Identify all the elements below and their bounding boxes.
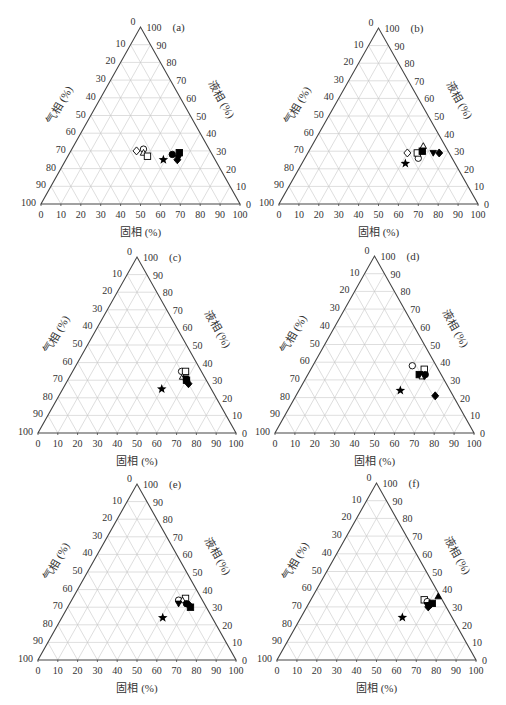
bottom-axis-title: 固相 (%) xyxy=(116,682,158,695)
left-tick-label: 40 xyxy=(324,91,334,102)
left-tick-label: 0 xyxy=(365,245,370,256)
right-tick-label: 20 xyxy=(460,393,470,404)
bottom-axis-title: 固相 (%) xyxy=(358,226,400,239)
square-filled-marker-icon xyxy=(429,600,435,606)
left-axis-title: 气相 (%) xyxy=(40,313,73,356)
right-tick-label: 60 xyxy=(183,549,193,560)
square-filled-marker-icon xyxy=(419,148,425,154)
grid-lines xyxy=(48,502,226,660)
right-tick-label: 100 xyxy=(385,23,400,34)
right-axis-title: 液相 (%) xyxy=(443,79,476,122)
bottom-tick-label: 50 xyxy=(370,438,380,449)
right-tick-label: 90 xyxy=(390,269,400,280)
right-tick-label: 80 xyxy=(166,57,176,68)
left-tick-label: 0 xyxy=(131,16,136,27)
bottom-tick-label: 20 xyxy=(310,438,320,449)
right-tick-label: 80 xyxy=(163,514,173,525)
bottom-tick-label: 90 xyxy=(211,438,221,449)
data-points xyxy=(401,143,443,168)
panel-label: (e) xyxy=(169,478,182,491)
bottom-tick-label: 0 xyxy=(273,438,278,449)
left-tick-label: 50 xyxy=(314,109,324,120)
bottom-tick-label: 60 xyxy=(391,665,401,676)
right-tick-label: 30 xyxy=(450,375,460,386)
bottom-tick-label: 40 xyxy=(354,209,364,220)
left-tick-label: 80 xyxy=(280,391,290,402)
right-axis-title: 液相 (%) xyxy=(441,534,474,577)
left-tick-label: 80 xyxy=(282,618,292,629)
ternary-panel-e: 0001010102020203030304040405050506060607… xyxy=(18,473,247,695)
ternary-panel-b: 0001010102020203030304040405050506060607… xyxy=(259,17,489,239)
right-tick-label: 50 xyxy=(193,340,203,351)
diamond-open-marker-icon xyxy=(404,149,411,157)
bottom-tick-label: 90 xyxy=(211,665,221,676)
bottom-tick-label: 20 xyxy=(73,665,83,676)
right-tick-label: 40 xyxy=(440,357,450,368)
left-tick-label: 20 xyxy=(340,284,350,295)
bottom-tick-label: 0 xyxy=(36,665,41,676)
right-tick-label: 100 xyxy=(147,22,162,33)
left-tick-label: 0 xyxy=(367,472,372,483)
right-tick-label: 70 xyxy=(173,532,183,543)
grid-lines xyxy=(285,274,464,433)
right-tick-label: 60 xyxy=(420,322,430,333)
right-tick-label: 90 xyxy=(392,496,402,507)
right-tick-label: 100 xyxy=(143,479,158,490)
right-tick-label: 50 xyxy=(434,111,444,122)
panel-label: (a) xyxy=(173,21,186,34)
right-tick-label: 90 xyxy=(153,497,163,508)
square-filled-marker-icon xyxy=(187,604,193,610)
left-tick-label: 40 xyxy=(320,320,330,331)
right-tick-label: 40 xyxy=(442,584,452,595)
bottom-tick-label: 10 xyxy=(290,438,300,449)
ternary-panel-c: 0001010102020203030304040405050506060607… xyxy=(18,246,247,468)
left-tick-label: 30 xyxy=(330,302,340,313)
star-marker-icon xyxy=(401,159,411,168)
bottom-tick-label: 60 xyxy=(152,438,162,449)
left-tick-label: 40 xyxy=(82,547,92,558)
right-tick-label: 10 xyxy=(474,181,484,192)
bottom-tick-label: 50 xyxy=(136,209,146,220)
panel-label: (c) xyxy=(169,251,182,264)
left-tick-label: 100 xyxy=(257,653,272,664)
bottom-tick-label: 40 xyxy=(112,665,122,676)
bottom-tick-label: 80 xyxy=(191,438,201,449)
bottom-tick-label: 0 xyxy=(39,209,44,220)
left-tick-label: 70 xyxy=(53,600,63,611)
bottom-tick-label: 0 xyxy=(36,438,41,449)
bottom-tick-label: 50 xyxy=(132,665,142,676)
bottom-tick-label: 60 xyxy=(389,438,399,449)
bottom-tick-label: 30 xyxy=(332,665,342,676)
left-tick-label: 10 xyxy=(350,267,360,278)
diamond-filled-marker-icon xyxy=(432,392,439,400)
bottom-tick-label: 30 xyxy=(96,209,106,220)
left-tick-label: 60 xyxy=(63,583,73,594)
bottom-tick-label: 40 xyxy=(352,665,362,676)
right-tick-label: 30 xyxy=(216,146,226,157)
left-tick-label: 70 xyxy=(292,600,302,611)
right-tick-label: 90 xyxy=(156,40,166,51)
right-tick-label: 20 xyxy=(222,620,232,631)
bottom-tick-label: 90 xyxy=(215,209,225,220)
bottom-axis-title: 固相 (%) xyxy=(116,455,158,468)
left-tick-label: 100 xyxy=(18,653,33,664)
bottom-tick-label: 100 xyxy=(229,665,244,676)
ternary-panel-a: 0001010102020203030304040405050506060607… xyxy=(21,16,251,239)
bottom-tick-label: 10 xyxy=(294,209,304,220)
right-tick-label: 20 xyxy=(462,620,472,631)
bottom-tick-label: 70 xyxy=(413,209,423,220)
right-tick-label: 70 xyxy=(173,305,183,316)
left-tick-label: 0 xyxy=(127,246,132,257)
left-tick-label: 70 xyxy=(294,144,304,155)
bottom-tick-label: 30 xyxy=(92,438,102,449)
circle-open-marker-icon xyxy=(409,363,415,369)
right-axis-title: 液相 (%) xyxy=(205,78,238,121)
right-tick-label: 40 xyxy=(206,128,216,139)
left-tick-label: 80 xyxy=(46,162,56,173)
left-axis-title: 气相 (%) xyxy=(40,540,73,583)
left-tick-label: 40 xyxy=(86,91,96,102)
left-tick-label: 20 xyxy=(344,56,354,67)
bottom-tick-label: 70 xyxy=(172,665,182,676)
bottom-tick-label: 70 xyxy=(175,209,185,220)
left-tick-label: 90 xyxy=(270,408,280,419)
